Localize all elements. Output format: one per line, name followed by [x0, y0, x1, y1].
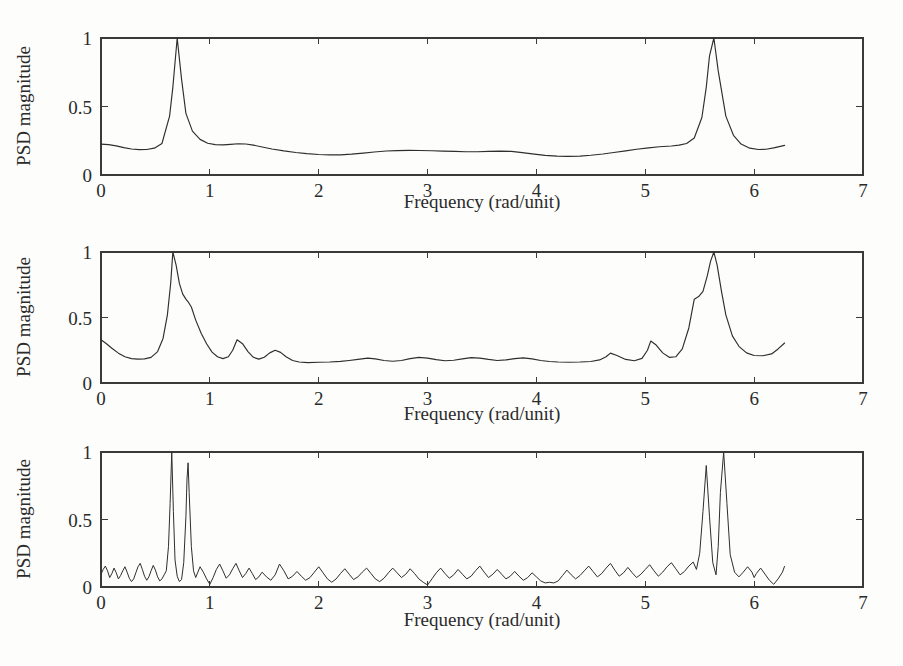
x-tick-label: 1 — [205, 592, 215, 613]
panel-1-axes: 0123456700.51Frequency (rad/unit)PSD mag… — [13, 28, 868, 213]
x-tick-label: 6 — [749, 592, 759, 613]
x-tick-label: 0 — [96, 592, 106, 613]
plot-frame — [101, 38, 863, 175]
x-tick-label: 6 — [749, 388, 759, 409]
panel-3-axes: 0123456700.51Frequency (rad/unit)PSD mag… — [13, 442, 868, 631]
plot-frame — [101, 452, 863, 587]
y-tick-label: 0.5 — [68, 97, 92, 118]
x-tick-label: 1 — [205, 180, 215, 201]
y-axis-label: PSD magnitude — [13, 257, 34, 377]
psd-panel-3: 0123456700.51Frequency (rad/unit)PSD mag… — [0, 414, 903, 664]
psd-panel-3-svg: 0123456700.51Frequency (rad/unit)PSD mag… — [0, 414, 903, 664]
x-tick-label: 7 — [858, 388, 868, 409]
x-tick-label: 5 — [641, 180, 651, 201]
panel-2-curve — [101, 252, 785, 363]
y-tick-label: 0.5 — [68, 308, 92, 329]
x-tick-label: 5 — [641, 388, 651, 409]
y-tick-label: 1 — [83, 28, 93, 49]
psd-panel-1: 0123456700.51Frequency (rad/unit)PSD mag… — [0, 0, 903, 222]
plot-frame — [101, 252, 863, 383]
x-tick-label: 2 — [314, 180, 324, 201]
x-tick-label: 2 — [314, 388, 324, 409]
x-tick-label: 0 — [96, 180, 106, 201]
x-tick-label: 1 — [205, 388, 215, 409]
psd-panel-2-svg: 0123456700.51Frequency (rad/unit)PSD mag… — [0, 214, 903, 436]
y-tick-label: 0 — [83, 373, 93, 394]
y-tick-label: 1 — [83, 442, 93, 463]
x-tick-label: 7 — [858, 180, 868, 201]
psd-figure: 0123456700.51Frequency (rad/unit)PSD mag… — [0, 0, 903, 666]
y-tick-label: 0 — [83, 577, 93, 598]
y-tick-label: 0 — [83, 165, 93, 186]
x-tick-label: 6 — [749, 180, 759, 201]
x-tick-label: 2 — [314, 592, 324, 613]
y-axis-label: PSD magnitude — [13, 46, 34, 166]
x-tick-label: 7 — [858, 592, 868, 613]
y-axis-label: PSD magnitude — [13, 459, 34, 579]
x-tick-label: 5 — [641, 592, 651, 613]
y-tick-label: 0.5 — [68, 510, 92, 531]
panel-2-axes: 0123456700.51Frequency (rad/unit)PSD mag… — [13, 242, 868, 425]
x-axis-label: Frequency (rad/unit) — [404, 609, 561, 631]
x-tick-label: 0 — [96, 388, 106, 409]
psd-panel-1-svg: 0123456700.51Frequency (rad/unit)PSD mag… — [0, 0, 903, 222]
x-axis-label: Frequency (rad/unit) — [404, 191, 561, 213]
panel-3-curve — [101, 452, 785, 585]
psd-panel-2: 0123456700.51Frequency (rad/unit)PSD mag… — [0, 214, 903, 436]
panel-1-curve — [101, 38, 785, 156]
y-tick-label: 1 — [83, 242, 93, 263]
